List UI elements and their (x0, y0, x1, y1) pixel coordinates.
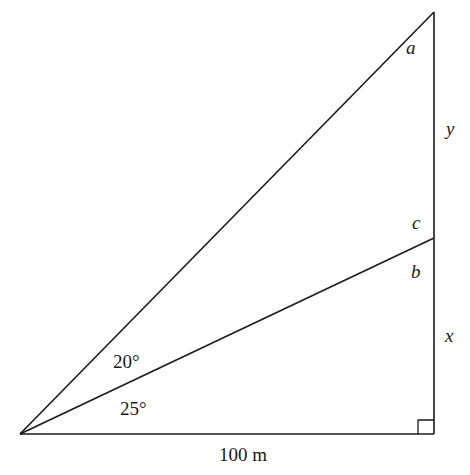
right-angle-marker (418, 420, 434, 434)
label-angle-b: b (411, 262, 421, 281)
lower-hypotenuse (20, 238, 434, 434)
label-segment-y: y (446, 119, 454, 138)
label-base-length: 100 m (219, 445, 267, 464)
label-segment-x: x (445, 326, 453, 345)
label-angle-25: 25° (120, 399, 147, 418)
label-angle-20: 20° (113, 352, 140, 371)
label-angle-a: a (406, 38, 416, 57)
triangle-diagram: a y c b x 20° 25° 100 m (0, 0, 470, 475)
upper-hypotenuse (20, 12, 434, 434)
label-angle-c: c (412, 213, 420, 232)
diagram-canvas (0, 0, 470, 475)
